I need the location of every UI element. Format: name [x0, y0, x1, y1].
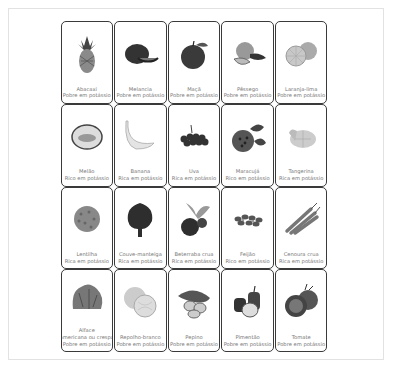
kale-icon	[120, 199, 160, 239]
food-name: Abacaxi	[63, 86, 111, 93]
potassium-level: Pobre em potássio	[170, 341, 218, 348]
food-name: Banana	[118, 168, 162, 175]
potassium-level: Pobre em potássio	[116, 92, 164, 99]
tangerine-icon	[281, 117, 321, 157]
card-couve-manteiga: Couve-manteigaRica em potássio	[114, 187, 167, 270]
card-tangerina: TangerinaRica em potássio	[275, 104, 328, 187]
watermelon-icon	[120, 34, 160, 74]
food-card-grid: AbacaxiPobre em potássio MelanciaPobre e…	[60, 21, 328, 352]
potassium-level: Pobre em potássio	[277, 341, 325, 348]
food-name: Tomate	[277, 334, 325, 341]
potassium-level: Pobre em potássio	[224, 92, 272, 99]
potassium-level: Rico em potássio	[225, 175, 269, 182]
potassium-level: Pobre em potássio	[277, 92, 325, 99]
card-cenoura-crua: Cenoura cruaRica em potássio	[275, 187, 328, 270]
card-maracuja: MaracujáRico em potássio	[221, 104, 274, 187]
card-tomate: TomatePobre em potássio	[275, 269, 328, 352]
card-pimentao: PimentãoPobre em potássio	[221, 269, 274, 352]
card-feijao: FeijãoRico em potássio	[221, 187, 274, 270]
food-name: Melancia	[116, 86, 164, 93]
food-name: Pepino	[170, 334, 218, 341]
potassium-level: Rico em potássio	[65, 175, 109, 182]
beet-icon	[174, 199, 214, 239]
food-name: Pêssego	[224, 86, 272, 93]
potassium-level: Rica em potássio	[65, 258, 109, 265]
card-repolho-branco: Repolho-brancoPobre em potássio	[114, 269, 167, 352]
pineapple-icon	[67, 34, 107, 74]
card-lentilha: LentilhaRica em potássio	[61, 187, 114, 270]
card-uva: UvaRica em potássio	[168, 104, 221, 187]
card-beterraba-crua: Beterraba cruaRica em potássio	[168, 187, 221, 270]
food-name: Cenoura crua	[279, 251, 323, 258]
tomato-icon	[281, 282, 321, 322]
card-pepino: PepinoPobre em potássio	[168, 269, 221, 352]
food-name: Feijão	[225, 251, 269, 258]
card-banana: BananaRica em potássio	[114, 104, 167, 187]
grapes-icon	[174, 117, 214, 157]
potassium-level: Pobre em potássio	[224, 341, 272, 348]
food-name: Uva	[172, 168, 216, 175]
card-alface: Alface(americana ou crespa)Pobre em potá…	[61, 269, 114, 352]
potassium-level: Rica em potássio	[118, 258, 162, 265]
cucumber-icon	[174, 282, 214, 322]
potassium-level: Pobre em potássio	[116, 341, 164, 348]
food-name: Tangerina	[279, 168, 323, 175]
lettuce-icon	[67, 279, 107, 319]
potassium-level: Pobre em potássio	[63, 92, 111, 99]
potassium-level: Rica em potássio	[172, 258, 216, 265]
food-name-detail: (americana ou crespa)	[61, 334, 114, 341]
melon-icon	[67, 117, 107, 157]
carrot-icon	[281, 199, 321, 239]
food-name: Melão	[65, 168, 109, 175]
food-name: Maracujá	[225, 168, 269, 175]
food-name: Pimentão	[224, 334, 272, 341]
food-name: Couve-manteiga	[118, 251, 162, 258]
potassium-level: Pobre em potássio	[61, 341, 114, 348]
food-name: Maçã	[170, 86, 218, 93]
potassium-level: Rica em potássio	[279, 175, 323, 182]
food-name: Laranja-lima	[277, 86, 325, 93]
potassium-level: Rica em potássio	[172, 175, 216, 182]
potassium-level: Rica em potássio	[279, 258, 323, 265]
banana-icon	[120, 117, 160, 157]
potassium-level: Rica em potássio	[118, 175, 162, 182]
cabbage-icon	[120, 282, 160, 322]
potassium-level: Pobre em potássio	[170, 92, 218, 99]
lentils-icon	[67, 199, 107, 239]
bell-pepper-icon	[228, 282, 268, 322]
card-melao: MelãoRico em potássio	[61, 104, 114, 187]
food-name: Repolho-branco	[116, 334, 164, 341]
beans-icon	[228, 199, 268, 239]
food-name: Lentilha	[65, 251, 109, 258]
card-abacaxi: AbacaxiPobre em potássio	[61, 21, 114, 104]
food-name: Beterraba crua	[172, 251, 216, 258]
apple-icon	[174, 34, 214, 74]
card-laranja-lima: Laranja-limaPobre em potássio	[275, 21, 328, 104]
card-melancia: MelanciaPobre em potássio	[114, 21, 167, 104]
card-pessego: PêssegoPobre em potássio	[221, 21, 274, 104]
potassium-level: Rico em potássio	[225, 258, 269, 265]
food-name: Alface	[61, 327, 114, 334]
peach-icon	[228, 34, 268, 74]
card-maca: MaçãPobre em potássio	[168, 21, 221, 104]
passion-fruit-icon	[228, 117, 268, 157]
orange-icon	[281, 34, 321, 74]
